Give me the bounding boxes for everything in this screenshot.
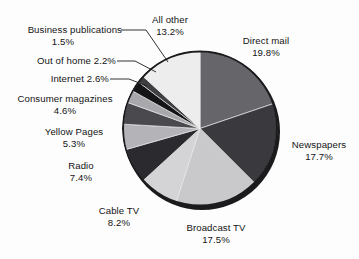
callout-cable-tv: Cable TV 8.2%: [78, 205, 160, 228]
callout-out-of-home-name: Out of home 2.2%: [4, 55, 116, 67]
callout-direct-mail-name: Direct mail: [228, 35, 304, 47]
callout-business-publications: Business publications 1.5%: [4, 24, 122, 47]
callout-newspapers-name: Newspapers: [282, 139, 356, 151]
callout-all-other-value: 13.2%: [134, 26, 206, 38]
callout-yellow-pages-name: Yellow Pages: [22, 126, 126, 138]
callout-consumer-magazines-name: Consumer magazines: [4, 93, 126, 105]
callout-internet-name: Internet 2.6%: [4, 73, 109, 85]
callout-business-publications-name: Business publications: [4, 24, 122, 36]
callout-direct-mail: Direct mail 19.8%: [228, 35, 304, 58]
pie-chart-figure: Business publications 1.5% Out of home 2…: [0, 0, 359, 259]
callout-broadcast-tv-name: Broadcast TV: [170, 222, 262, 234]
callout-consumer-magazines: Consumer magazines 4.6%: [4, 93, 126, 116]
callout-all-other: All other 13.2%: [134, 14, 206, 37]
callout-out-of-home: Out of home 2.2%: [4, 55, 116, 67]
callout-cable-tv-name: Cable TV: [78, 205, 160, 217]
callout-broadcast-tv-value: 17.5%: [170, 234, 262, 246]
callout-cable-tv-value: 8.2%: [78, 217, 160, 229]
callout-newspapers: Newspapers 17.7%: [282, 139, 356, 162]
callout-radio-name: Radio: [42, 160, 120, 172]
callout-yellow-pages-value: 5.3%: [22, 138, 126, 150]
callout-radio: Radio 7.4%: [42, 160, 120, 183]
callout-newspapers-value: 17.7%: [282, 151, 356, 163]
callout-consumer-magazines-value: 4.6%: [4, 105, 126, 117]
pie-svg: [122, 50, 278, 207]
callout-broadcast-tv: Broadcast TV 17.5%: [170, 222, 262, 245]
callout-yellow-pages: Yellow Pages 5.3%: [22, 126, 126, 149]
callout-all-other-name: All other: [134, 14, 206, 26]
pie-chart: [122, 50, 278, 207]
callout-business-publications-value: 1.5%: [4, 36, 122, 48]
callout-internet: Internet 2.6%: [4, 73, 109, 85]
pie-slices: [122, 50, 278, 207]
callout-radio-value: 7.4%: [42, 172, 120, 184]
callout-direct-mail-value: 19.8%: [228, 47, 304, 59]
